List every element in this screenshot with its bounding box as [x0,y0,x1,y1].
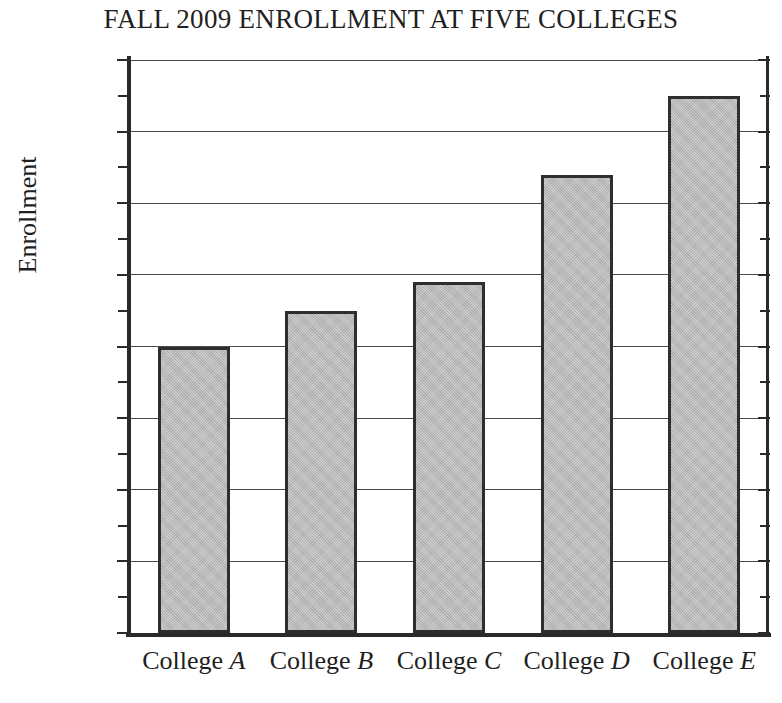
chart-title: FALL 2009 ENROLLMENT AT FIVE COLLEGES [0,4,782,35]
bar-e [668,96,740,633]
y-tick-major [117,489,128,491]
y-tick-minor-right [760,381,770,383]
y-tick-minor [118,310,128,312]
y-tick-major-right [758,632,770,634]
y-tick-minor-right [760,238,770,240]
y-tick-major [117,560,128,562]
y-tick-minor [118,238,128,240]
x-axis-line [126,633,771,637]
x-tick-label: College B [258,646,386,676]
y-tick-major [117,632,128,634]
y-tick-major [117,346,128,348]
y-axis-title: Enrollment [13,125,43,305]
y-tick-minor-right [760,166,770,168]
y-tick-minor [118,166,128,168]
y-tick-minor-right [760,310,770,312]
x-tick-label: College A [130,646,258,676]
y-tick-major [117,59,128,61]
y-tick-minor-right [760,95,770,97]
y-tick-major [117,131,128,133]
bar-c [413,282,485,633]
y-tick-major [117,202,128,204]
y-tick-major-right [758,560,770,562]
x-tick-label: College C [385,646,513,676]
y-tick-minor-right [760,525,770,527]
y-tick-minor [118,95,128,97]
y-tick-minor-right [760,453,770,455]
x-tick-label: College D [513,646,641,676]
bar-d [541,175,613,633]
y-tick-major-right [758,417,770,419]
bar-chart: FALL 2009 ENROLLMENT AT FIVE COLLEGES En… [0,0,782,703]
y-tick-major-right [758,489,770,491]
y-tick-major-right [758,274,770,276]
bar-a [158,347,230,634]
y-tick-major-right [758,131,770,133]
plot-area: 01,0002,0003,0004,0005,0006,0007,0008,00… [130,60,768,633]
bar-b [285,311,357,633]
y-tick-major [117,417,128,419]
y-tick-major-right [758,202,770,204]
y-tick-minor-right [760,596,770,598]
gridline [130,60,768,61]
x-tick-label: College E [640,646,768,676]
y-tick-minor [118,381,128,383]
y-tick-major [117,274,128,276]
y-tick-major-right [758,346,770,348]
y-tick-minor [118,453,128,455]
y-tick-major-right [758,59,770,61]
y-tick-minor [118,596,128,598]
y-tick-minor [118,525,128,527]
